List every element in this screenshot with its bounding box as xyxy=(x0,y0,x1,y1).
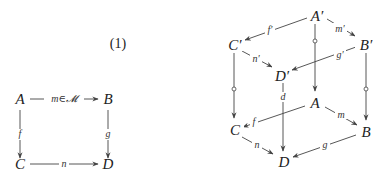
square-node-B: B xyxy=(103,91,112,107)
cube-node-D: D xyxy=(278,154,290,170)
cube-edge-m-label: m xyxy=(337,109,344,120)
cube-edge-g1 xyxy=(292,47,356,70)
cube-node-B: B xyxy=(361,124,370,140)
square-node-A: A xyxy=(14,91,25,107)
cube-node-A: A xyxy=(309,95,320,111)
cube-node-A1: A′ xyxy=(310,8,324,24)
cube-diagram: f′ m′ n′ g′ c b d f m n g xyxy=(225,6,375,170)
cube-edge-f1 xyxy=(245,18,307,40)
cube-edge-g-label: g xyxy=(323,139,328,150)
diagram-canvas: m∈𝓜 f g n A B C D (1) f′ m′ n′ g′ xyxy=(0,0,385,182)
cube-node-B1: B′ xyxy=(360,37,373,53)
square-edge-n-label: n xyxy=(62,158,67,169)
equation-number: (1) xyxy=(110,36,127,52)
circle-mark-icon xyxy=(232,87,236,91)
cube-edge-g1-label: g′ xyxy=(336,49,344,60)
square-diagram: m∈𝓜 f g n A B C D xyxy=(14,91,113,172)
cube-edge-f1-label: f′ xyxy=(268,24,274,35)
circle-mark-icon xyxy=(364,87,368,91)
cube-edge-m1-label: m′ xyxy=(335,23,345,34)
cube-node-C: C xyxy=(230,122,241,138)
square-node-C: C xyxy=(15,156,26,172)
cube-edge-n-label: n xyxy=(255,139,260,150)
square-edge-m-label: m∈𝓜 xyxy=(51,93,81,104)
square-edge-g-label: g xyxy=(106,128,111,139)
cube-edge-n1-label: n′ xyxy=(252,53,260,64)
circle-mark-icon xyxy=(313,39,317,43)
square-node-D: D xyxy=(102,156,114,172)
cube-node-D1: D′ xyxy=(274,68,290,84)
cube-node-C1: C′ xyxy=(228,37,242,53)
